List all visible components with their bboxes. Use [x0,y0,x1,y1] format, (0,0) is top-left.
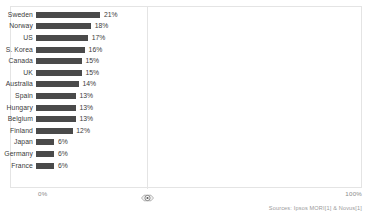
bar [36,139,54,145]
bar [36,163,54,169]
bar-category-label: Sweden [0,11,36,19]
bar-value-label: 15% [82,57,99,65]
bar-row: Norway18% [0,21,372,33]
bar-category-label: Spain [0,92,36,100]
bar-row: Hungary13% [0,102,372,114]
bar-container: 6% [36,148,68,160]
bar-category-label: Japan [0,138,36,146]
bar-value-label: 13% [76,92,93,100]
bar-row: Spain13% [0,90,372,102]
bar [36,35,88,41]
bar-row: Australia14% [0,79,372,91]
bar-category-label: Australia [0,80,36,88]
bar-container: 6% [36,137,68,149]
bar-container: 14% [36,79,96,91]
bar-value-label: 12% [73,127,90,135]
bar-chart-rows: Sweden21%Norway18%US17%S. Korea16%Canada… [0,9,372,171]
bar-value-label: 18% [91,22,108,30]
bar [36,47,85,53]
bar-category-label: Norway [0,22,36,30]
bar-container: 13% [36,102,93,114]
bar-row: S. Korea16% [0,44,372,56]
bar-container: 16% [36,44,102,56]
bar-category-label: Germany [0,150,36,158]
bar-container: 15% [36,67,99,79]
bar-value-label: 13% [76,115,93,123]
bar [36,93,76,99]
bar-row: Finland12% [0,125,372,137]
bar-container: 15% [36,55,99,67]
bar-value-label: 6% [54,162,67,170]
bar [36,23,91,29]
bar-row: Canada15% [0,55,372,67]
bar-row: Japan6% [0,137,372,149]
bar-category-label: Hungary [0,104,36,112]
bar-value-label: 21% [100,11,117,19]
bar-value-label: 6% [54,138,67,146]
bar-container: 6% [36,160,68,172]
chart-screenshot: Sweden21%Norway18%US17%S. Korea16%Canada… [0,0,372,224]
bar [36,70,82,76]
bar [36,151,54,157]
bar-row: Sweden21% [0,9,372,21]
source-attribution: Sources: Ipsos MORI[1] & Novus[1] [269,205,362,211]
bar-value-label: 6% [54,150,67,158]
bar [36,81,79,87]
bar-container: 18% [36,21,108,33]
bar-category-label: US [0,34,36,42]
bar-category-label: France [0,162,36,170]
bar-container: 13% [36,113,93,125]
bar-value-label: 17% [88,34,105,42]
bar-value-label: 13% [76,104,93,112]
bar [36,12,100,18]
bar-value-label: 14% [79,80,96,88]
bar-row: UK15% [0,67,372,79]
bar-category-label: UK [0,69,36,77]
axis-tick-max: 100% [345,190,362,197]
bar [36,128,73,134]
bar-container: 17% [36,32,105,44]
bar-row: Belgium13% [0,113,372,125]
bar-value-label: 15% [82,69,99,77]
bar [36,105,76,111]
bar-category-label: Finland [0,127,36,135]
bar [36,116,76,122]
circle-logo-icon [140,190,155,202]
bar-category-label: Canada [0,57,36,65]
bar-container: 21% [36,9,118,21]
bar [36,58,82,64]
bar-container: 12% [36,125,90,137]
bar-category-label: Belgium [0,115,36,123]
bar-row: France6% [0,160,372,172]
axis-tick-min: 0% [38,190,47,197]
bar-row: Germany6% [0,148,372,160]
bar-container: 13% [36,90,93,102]
bar-row: US17% [0,32,372,44]
bar-value-label: 16% [85,46,102,54]
bar-category-label: S. Korea [0,46,36,54]
